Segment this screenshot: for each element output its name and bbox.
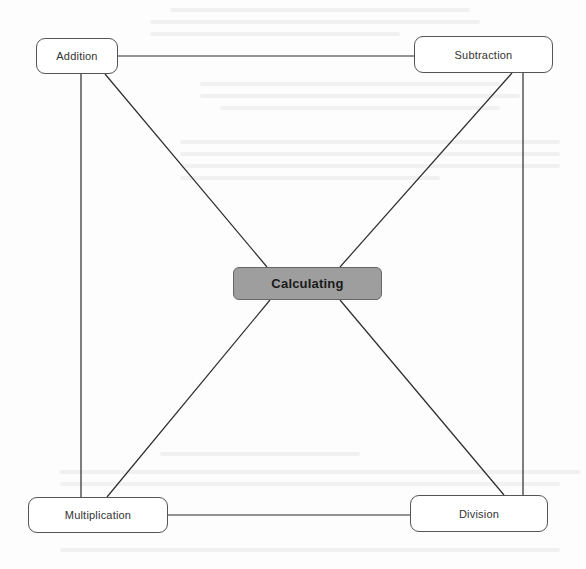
node-addition-label: Addition xyxy=(56,50,97,62)
diagram-canvas: Addition Subtraction Calculating Multipl… xyxy=(0,0,586,569)
node-multiplication-label: Multiplication xyxy=(65,509,131,521)
node-division: Division xyxy=(410,495,548,532)
node-addition: Addition xyxy=(36,38,118,74)
node-subtraction: Subtraction xyxy=(414,36,553,73)
node-subtraction-label: Subtraction xyxy=(455,49,513,61)
node-multiplication: Multiplication xyxy=(28,497,168,533)
edge-division-calculating xyxy=(340,300,504,495)
edge-subtraction-calculating xyxy=(340,73,512,267)
edge-addition-calculating xyxy=(105,74,267,267)
node-division-label: Division xyxy=(459,508,499,520)
edge-multiplication-calculating xyxy=(107,300,270,497)
node-calculating-label: Calculating xyxy=(271,276,343,291)
node-calculating: Calculating xyxy=(233,267,382,300)
